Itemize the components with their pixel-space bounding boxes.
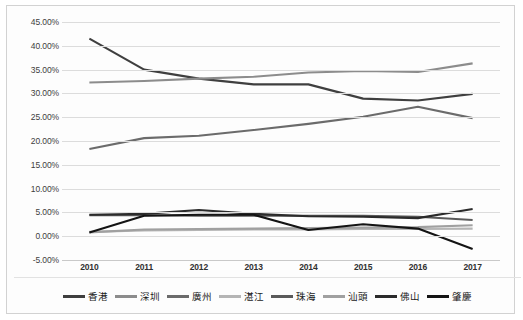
legend-item[interactable]: 廣州: [167, 289, 212, 303]
x-axis-tick-label: 2014: [281, 262, 336, 276]
gridline: [62, 117, 500, 118]
y-axis-tick-label: 30.00%: [9, 88, 59, 98]
gridline: [62, 165, 500, 166]
x-axis-tick-label: 2016: [391, 262, 446, 276]
legend-item[interactable]: 汕頭: [323, 289, 368, 303]
legend-item[interactable]: 肇慶: [427, 289, 472, 303]
y-axis-tick-label: 45.00%: [9, 17, 59, 27]
legend-swatch: [167, 295, 189, 298]
x-axis-tick-label: 2015: [336, 262, 391, 276]
legend-label: 深圳: [140, 289, 160, 303]
line-series: [89, 63, 472, 82]
legend-label: 廣州: [192, 289, 212, 303]
gridline: [62, 189, 500, 190]
gridline: [62, 260, 500, 261]
legend-item[interactable]: 深圳: [115, 289, 160, 303]
chart-legend: 香港深圳廣州湛江珠海汕頭佛山肇慶: [13, 286, 522, 306]
y-axis-tick-label: 0.00%: [9, 231, 59, 241]
gridline: [62, 93, 500, 94]
legend-divider: [14, 277, 521, 278]
x-axis: 20102011201220132014201520162017: [62, 262, 500, 276]
x-axis-tick-label: 2013: [226, 262, 281, 276]
y-axis-tick-label: 40.00%: [9, 41, 59, 51]
legend-swatch: [115, 295, 137, 298]
legend-label: 佛山: [400, 289, 420, 303]
line-series: [89, 215, 472, 249]
y-axis-tick-label: 35.00%: [9, 65, 59, 75]
x-axis-tick-label: 2012: [172, 262, 227, 276]
x-axis-tick-label: 2011: [117, 262, 172, 276]
legend-label: 珠海: [296, 289, 316, 303]
legend-label: 香港: [88, 289, 108, 303]
gridline: [62, 22, 500, 23]
legend-label: 肇慶: [452, 289, 472, 303]
y-axis-tick-label: 5.00%: [9, 207, 59, 217]
line-series: [89, 107, 472, 149]
gridline: [62, 46, 500, 47]
chart-frame: 45.00%40.00%35.00%30.00%25.00%20.00%15.0…: [6, 5, 515, 314]
legend-swatch: [63, 295, 85, 298]
gridline: [62, 236, 500, 237]
legend-swatch: [427, 295, 449, 298]
legend-item[interactable]: 珠海: [271, 289, 316, 303]
x-axis-tick-label: 2017: [445, 262, 500, 276]
legend-swatch: [375, 295, 397, 298]
plot-area: [62, 22, 500, 260]
legend-swatch: [271, 295, 293, 298]
y-axis-tick-label: 20.00%: [9, 136, 59, 146]
gridline: [62, 212, 500, 213]
legend-item[interactable]: 香港: [63, 289, 108, 303]
gridline: [62, 141, 500, 142]
y-axis: 45.00%40.00%35.00%30.00%25.00%20.00%15.0…: [7, 22, 59, 260]
x-axis-tick-label: 2010: [62, 262, 117, 276]
y-axis-tick-label: -5.00%: [9, 255, 59, 265]
y-axis-tick-label: 10.00%: [9, 184, 59, 194]
legend-swatch: [219, 295, 241, 298]
legend-label: 湛江: [244, 289, 264, 303]
legend-swatch: [323, 295, 345, 298]
y-axis-tick-label: 15.00%: [9, 160, 59, 170]
y-axis-tick-label: 25.00%: [9, 112, 59, 122]
legend-item[interactable]: 湛江: [219, 289, 264, 303]
legend-label: 汕頭: [348, 289, 368, 303]
legend-item[interactable]: 佛山: [375, 289, 420, 303]
gridline: [62, 70, 500, 71]
